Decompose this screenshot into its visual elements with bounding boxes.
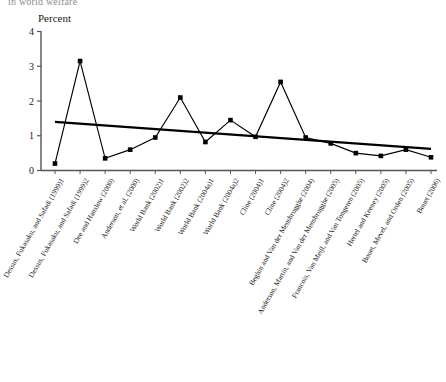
y-tick-label: 3: [29, 61, 34, 72]
data-point-marker[interactable]: [153, 135, 158, 140]
data-point-marker[interactable]: [53, 161, 58, 166]
y-tick-label: 1: [29, 130, 34, 141]
data-point-marker[interactable]: [203, 140, 208, 145]
chart-figure: in world welfare Percent 01234 Dessus, F…: [0, 0, 446, 382]
data-point-marker[interactable]: [354, 151, 359, 156]
data-point-marker[interactable]: [78, 59, 83, 64]
data-point-marker[interactable]: [278, 80, 283, 85]
data-point-marker[interactable]: [228, 118, 233, 123]
data-point-marker[interactable]: [128, 147, 133, 152]
data-point-marker[interactable]: [178, 95, 183, 100]
y-tick-label: 4: [29, 26, 34, 37]
trend-line: [55, 122, 431, 149]
plot-area: 01234: [0, 0, 446, 382]
data-series-line: [55, 61, 431, 164]
y-tick-label: 2: [29, 96, 34, 107]
data-point-marker[interactable]: [379, 154, 384, 159]
data-point-marker[interactable]: [103, 156, 108, 161]
data-point-marker[interactable]: [429, 155, 434, 160]
y-tick-label: 0: [29, 165, 34, 176]
